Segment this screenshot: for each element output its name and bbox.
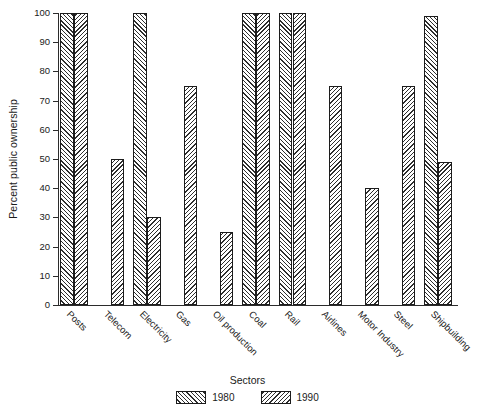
y-axis-tick-label: 60 — [39, 125, 50, 135]
y-axis-tick — [53, 305, 58, 306]
y-axis-tick-label: 50 — [39, 154, 50, 164]
public-ownership-bar-chart: Percent public ownership 010203040506070… — [0, 0, 495, 418]
bar-1980-rail — [279, 13, 293, 305]
bar-1990-shipbuilding — [438, 162, 452, 305]
bar-1990-gas — [184, 86, 198, 305]
bar-1990-coal — [256, 13, 270, 305]
y-axis-tick-label: 10 — [39, 271, 50, 281]
bar-1990-airlines — [329, 86, 343, 305]
x-tick-label-airlines: Airlines — [320, 309, 349, 338]
x-tick-label-shipbuilding: Shipbuilding — [429, 309, 472, 352]
y-axis-tick-label: 90 — [39, 37, 50, 47]
y-axis-label-container: Percent public ownership — [6, 13, 20, 305]
bar-1990-telecom — [111, 159, 125, 305]
y-axis-tick-label: 100 — [34, 8, 50, 18]
bar-1980-posts — [60, 13, 74, 305]
bar-1990-electricity — [147, 217, 161, 305]
legend-item-1990: 1990 — [261, 391, 319, 404]
legend-item-1980: 1980 — [176, 391, 234, 404]
bar-1980-shipbuilding — [424, 16, 438, 305]
bar-1990-posts — [74, 13, 88, 305]
chart-legend: 19801990 — [0, 391, 495, 404]
y-axis-tick-label: 20 — [39, 242, 50, 252]
legend-swatch-1980 — [176, 391, 206, 404]
y-axis-tick-label: 30 — [39, 213, 50, 223]
x-axis-label: Sectors — [0, 374, 495, 386]
x-axis-line — [58, 305, 458, 306]
bar-1990-oil-production — [220, 232, 234, 305]
bars-layer — [58, 13, 458, 305]
bar-1980-coal — [242, 13, 256, 305]
x-tick-label-gas: Gas — [175, 309, 194, 328]
legend-label-1980: 1980 — [212, 393, 234, 403]
bar-1990-motor-industry — [365, 188, 379, 305]
x-tick-label-posts: Posts — [65, 309, 89, 333]
y-axis-tick-label: 0 — [45, 300, 50, 310]
legend-swatch-1990 — [261, 391, 291, 404]
bar-1990-rail — [293, 13, 307, 305]
plot-area: 0102030405060708090100 — [58, 13, 458, 305]
x-tick-label-rail: Rail — [284, 309, 302, 327]
y-axis-tick-label: 40 — [39, 183, 50, 193]
x-tick-label-electricity: Electricity — [138, 309, 173, 344]
x-tick-label-coal: Coal — [247, 309, 268, 330]
x-tick-label-steel: Steel — [393, 309, 415, 331]
y-axis-tick-label: 70 — [39, 96, 50, 106]
bar-1990-steel — [402, 86, 416, 305]
y-axis-label: Percent public ownership — [7, 99, 19, 219]
x-tick-label-telecom: Telecom — [102, 309, 134, 341]
bar-1980-electricity — [133, 13, 147, 305]
y-axis-tick-label: 80 — [39, 67, 50, 77]
legend-label-1990: 1990 — [297, 393, 319, 403]
